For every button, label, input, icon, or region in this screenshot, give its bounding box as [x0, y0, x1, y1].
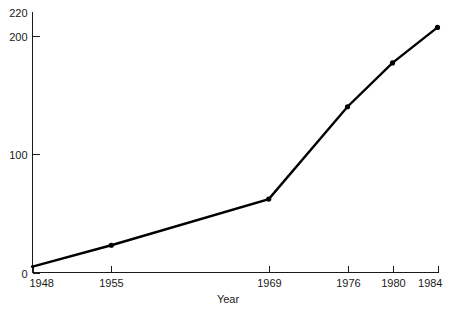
x-axis-title: Year — [217, 293, 240, 305]
y-tick-label: 0 — [21, 268, 27, 280]
x-tick-label: 1948 — [30, 277, 54, 289]
y-tick-label: 200 — [9, 31, 27, 43]
x-tick-label: 1969 — [257, 277, 281, 289]
x-tick-label: 1980 — [381, 277, 405, 289]
data-point — [109, 243, 114, 248]
data-point — [435, 25, 440, 30]
data-point — [31, 265, 34, 268]
x-tick-label: 1955 — [99, 277, 123, 289]
y-tick-label: 100 — [9, 149, 27, 161]
y-tick-label: 220 — [9, 7, 27, 19]
chart-canvas: 0100200220 194819551969197619801984 Year — [0, 0, 457, 315]
x-tick-label: 1984 — [418, 277, 442, 289]
chart-background — [0, 0, 457, 315]
data-point — [266, 196, 271, 201]
x-tick-label: 1976 — [336, 277, 360, 289]
data-point — [390, 60, 395, 65]
data-point — [345, 104, 350, 109]
line-chart: 0100200220 194819551969197619801984 Year — [0, 0, 457, 315]
